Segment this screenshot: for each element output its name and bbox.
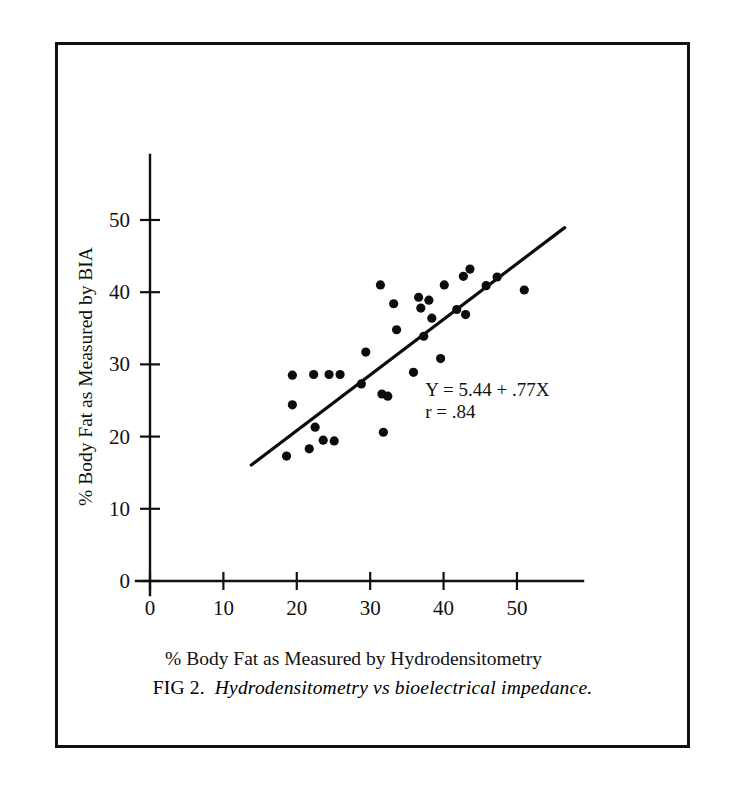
x-tick-label: 40 — [433, 596, 454, 620]
data-point — [311, 423, 320, 432]
data-point — [383, 392, 392, 401]
y-tick-label: 0 — [120, 569, 131, 593]
data-point — [319, 436, 328, 445]
x-tick-label: 30 — [360, 596, 381, 620]
data-point — [424, 296, 433, 305]
data-point — [427, 314, 436, 323]
figure-caption: FIG 2.Hydrodensitometry vs bioelectrical… — [58, 677, 687, 699]
x-tick-label: 50 — [506, 596, 527, 620]
x-axis-title: % Body Fat as Measured by Hydrodensitome… — [165, 648, 542, 669]
data-point — [288, 400, 297, 409]
data-point — [520, 285, 529, 294]
data-point — [465, 264, 474, 273]
y-tick-label: 50 — [109, 208, 130, 232]
data-point — [324, 370, 333, 379]
data-point — [459, 272, 468, 281]
regression-annotation: Y = 5.44 + .77X r = .84 — [425, 379, 549, 422]
data-point — [305, 444, 314, 453]
data-point — [335, 370, 344, 379]
data-point — [376, 280, 385, 289]
data-point — [416, 303, 425, 312]
data-points — [282, 264, 529, 460]
correlation-value: r = .84 — [425, 401, 476, 422]
y-tick-label: 40 — [109, 280, 130, 304]
x-tick-label: 20 — [286, 596, 307, 620]
data-point — [330, 436, 339, 445]
data-point — [379, 428, 388, 437]
y-tick-label: 20 — [109, 425, 130, 449]
scatter-plot: 0102030405001020304050 Y = 5.44 + .77X r… — [58, 45, 687, 685]
data-point — [461, 310, 470, 319]
regression-line-path — [251, 228, 564, 465]
data-point — [309, 370, 318, 379]
figure-frame: 0102030405001020304050 Y = 5.44 + .77X r… — [55, 42, 690, 748]
caption-label: FIG 2. — [153, 677, 205, 698]
data-point — [361, 348, 370, 357]
y-tick-label: 10 — [109, 497, 130, 521]
regression-equation: Y = 5.44 + .77X — [425, 379, 549, 400]
data-point — [282, 451, 291, 460]
data-point — [436, 354, 445, 363]
data-point — [389, 299, 398, 308]
caption-text: Hydrodensitometry vs bioelectrical imped… — [215, 677, 593, 698]
data-point — [392, 325, 401, 334]
regression-line — [251, 228, 564, 465]
data-point — [414, 293, 423, 302]
data-point — [288, 371, 297, 380]
x-tick-label: 0 — [145, 596, 156, 620]
axes — [136, 155, 583, 595]
y-tick-label: 30 — [109, 352, 130, 376]
data-point — [440, 280, 449, 289]
data-point — [409, 368, 418, 377]
y-axis-title: % Body Fat as Measured by BIA — [75, 247, 96, 506]
x-tick-label: 10 — [213, 596, 234, 620]
